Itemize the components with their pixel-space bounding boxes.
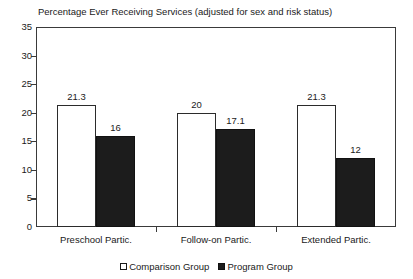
x-axis: Preschool Partic.Follow-on Partic.Extend…: [36, 234, 396, 248]
bar-value-label: 12: [336, 144, 375, 155]
white-square-icon: [120, 263, 127, 270]
x-tick-label: Extended Partic.: [276, 234, 396, 246]
x-tick-label: Preschool Partic.: [36, 234, 156, 246]
bar-comparison[interactable]: [57, 105, 96, 227]
bar-value-label: 21.3: [57, 91, 96, 102]
bar-program[interactable]: [336, 158, 375, 227]
bar-chart: Percentage Ever Receiving Services (adju…: [0, 0, 413, 279]
bar-program[interactable]: [216, 129, 255, 227]
bar-value-label: 21.3: [297, 91, 336, 102]
bars-layer: 21.3162017.121.312: [36, 27, 396, 227]
y-tick-label: 15: [0, 136, 32, 146]
y-tick-label: 0: [0, 222, 32, 232]
legend-label: Program Group: [227, 261, 292, 272]
y-tick-label: 10: [0, 165, 32, 175]
y-tick-label: 20: [0, 108, 32, 118]
bar-comparison[interactable]: [177, 113, 216, 227]
black-square-icon: [218, 263, 225, 270]
chart-title: Percentage Ever Receiving Services (adju…: [38, 6, 332, 18]
y-tick-label: 25: [0, 79, 32, 89]
legend-entry[interactable]: Program Group: [218, 261, 292, 272]
bar-program[interactable]: [96, 136, 135, 227]
bar-value-label: 20: [177, 99, 216, 110]
bar-value-label: 17.1: [216, 115, 255, 126]
y-tick-label: 30: [0, 51, 32, 61]
legend-label: Comparison Group: [129, 261, 209, 272]
legend-entry[interactable]: Comparison Group: [120, 261, 209, 272]
y-tick-label: 5: [0, 193, 32, 203]
chart-legend: Comparison GroupProgram Group: [0, 259, 413, 273]
x-tick-label: Follow-on Partic.: [156, 234, 276, 246]
x-tick-mark: [156, 227, 157, 232]
bar-value-label: 16: [96, 122, 135, 133]
y-tick-label: 35: [0, 22, 32, 32]
bar-comparison[interactable]: [297, 105, 336, 227]
x-tick-mark: [276, 227, 277, 232]
x-axis-tick-marks: [36, 227, 396, 233]
y-axis: 05101520253035: [0, 27, 32, 227]
